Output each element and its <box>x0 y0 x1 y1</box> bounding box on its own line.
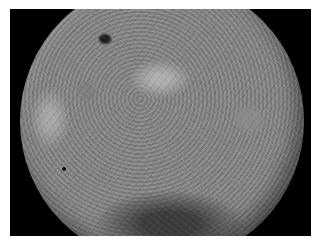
crater-texture <box>20 9 304 236</box>
moon-surface <box>20 9 304 236</box>
photo-frame <box>10 9 311 236</box>
